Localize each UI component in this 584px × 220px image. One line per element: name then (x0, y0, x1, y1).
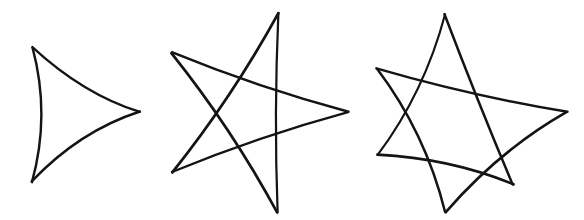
curved-triangle-3-cusp-arc-2 (32, 112, 140, 182)
curved-star-5-point-arc-2 (172, 112, 348, 172)
curved-star-6-point-arc-3 (377, 155, 513, 185)
figure-3-curved-star-6-point (376, 14, 567, 212)
figure-1-curved-triangle-3-cusp (32, 47, 140, 182)
curved-triangle-3-cusp-arc-3 (32, 48, 41, 183)
curved-star-5-point-arc-5 (172, 52, 348, 111)
curved-star-5-point-arc-4 (172, 13, 278, 172)
curved-star-5-point-arc-3 (171, 53, 277, 212)
curved-triangle-3-cusp-arc-1 (32, 47, 139, 112)
curved-star-5-point-arc-1 (276, 13, 278, 212)
curved-star-6-point-arc-2 (446, 112, 567, 212)
figure-board (0, 0, 584, 220)
figure-2-curved-star-5-point (171, 13, 348, 212)
curved-star-6-point-arc-6 (376, 68, 567, 111)
star-figures-canvas (0, 0, 584, 220)
